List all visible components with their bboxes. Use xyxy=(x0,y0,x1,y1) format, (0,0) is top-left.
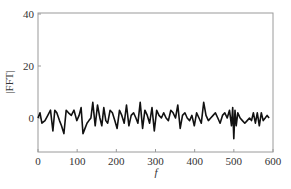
x-tick-label: 500 xyxy=(226,155,243,167)
y-axis-label: |FFT| xyxy=(3,70,15,93)
x-axis-label: f xyxy=(154,166,159,178)
x-tick-label: 0 xyxy=(35,155,41,167)
y-tick-label: 20 xyxy=(23,60,35,72)
x-tick-label: 200 xyxy=(108,155,125,167)
plot-area xyxy=(38,13,273,152)
y-tick-label: 0 xyxy=(29,112,35,124)
x-tick-label: 600 xyxy=(265,155,282,167)
y-tick-label: 40 xyxy=(23,8,35,20)
x-tick-label: 100 xyxy=(69,155,86,167)
fft-chart: 02040 0100200300400500600 |FFT| f xyxy=(0,0,291,189)
x-tick-label: 400 xyxy=(186,155,203,167)
